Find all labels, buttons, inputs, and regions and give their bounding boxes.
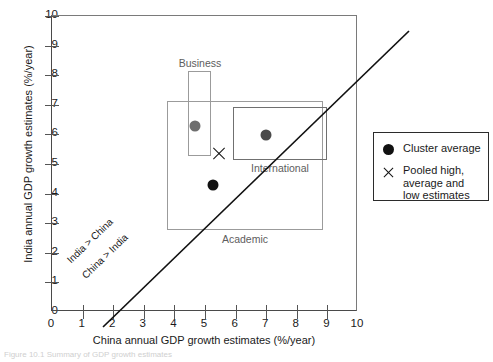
y-tick-5	[45, 164, 59, 165]
legend-label-pooled-line-1: Pooled high,	[403, 164, 464, 176]
data-point-international-cluster-average	[261, 130, 272, 141]
parity-line	[103, 31, 409, 327]
x-tick-label-1: 1	[67, 318, 97, 330]
x-axis-title: China annual GDP growth estimates (%/yea…	[51, 334, 357, 346]
legend: Cluster average Pooled high, average and…	[373, 132, 489, 201]
y-tick-10	[45, 16, 59, 17]
data-point-pooled-estimate-x-marker	[211, 145, 227, 161]
legend-label-pooled-line-3: low estimates	[403, 189, 470, 201]
y-tick-6	[45, 134, 59, 135]
y-tick-1	[45, 282, 59, 283]
plot-area: Business International Academic India > …	[51, 15, 357, 311]
data-point-business-cluster-average	[189, 121, 200, 132]
data-point-academic-cluster-average	[208, 180, 219, 191]
figure-caption: Figure 10.1 Summary of GDP growth estima…	[4, 350, 334, 359]
legend-label-pooled-estimates: Pooled high, average and low estimates	[403, 164, 470, 202]
chart-figure: 10 9 8 7 6 5 4 3 2 1 0 0 1 2 3 4 5 6 7 8…	[0, 0, 493, 362]
y-tick-8	[45, 75, 59, 76]
filled-circle-icon	[382, 142, 398, 156]
legend-entry-cluster-average: Cluster average	[382, 142, 481, 156]
y-tick-7	[45, 105, 59, 106]
y-tick-2	[45, 253, 59, 254]
legend-label-cluster-average: Cluster average	[403, 142, 481, 155]
y-tick-9	[45, 46, 59, 47]
y-axis-title: India annual GDP growth estimates (%/yea…	[22, 4, 34, 304]
y-tick-4	[45, 194, 59, 195]
y-tick-3	[45, 223, 59, 224]
x-mark-icon	[382, 164, 398, 178]
x-tick-1	[83, 305, 84, 319]
legend-entry-pooled-estimates: Pooled high, average and low estimates	[382, 164, 470, 202]
x-tick-label-0: 0	[36, 318, 66, 330]
legend-label-pooled-line-2: average and	[403, 177, 464, 189]
